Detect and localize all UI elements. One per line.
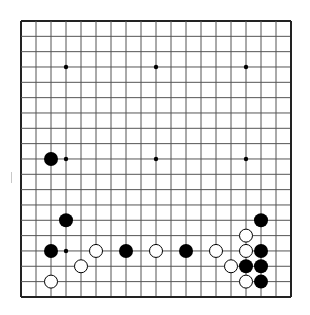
white-stone [210,244,223,257]
star-point [154,65,158,69]
black-stone [59,213,73,227]
star-point [244,65,248,69]
white-stone [240,275,253,288]
black-stone [254,213,268,227]
black-stone [44,152,58,166]
margin-mark [11,172,12,183]
star-point [64,249,68,253]
black-stone [179,244,193,258]
white-stone [75,260,88,273]
white-stone [240,229,253,242]
black-stone [119,244,133,258]
star-point [64,157,68,161]
star-point [64,65,68,69]
black-stone [254,244,268,258]
white-stone [45,275,58,288]
white-stone [150,244,163,257]
black-stone [254,275,268,289]
white-stone [225,260,238,273]
black-stone [254,259,268,273]
go-board[interactable] [0,0,310,315]
white-stone [240,244,253,257]
white-stone [90,244,103,257]
black-stone [44,244,58,258]
black-stone [239,259,253,273]
star-point [154,157,158,161]
star-point [244,157,248,161]
